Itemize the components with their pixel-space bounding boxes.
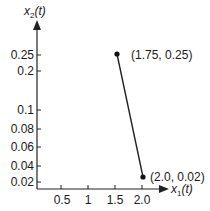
y-tick-label: 0.2 xyxy=(17,64,34,78)
x-tick-label: 1.5 xyxy=(107,193,124,207)
end-point xyxy=(140,174,145,179)
x-tick-label: 1 xyxy=(85,193,92,207)
y-tick-label: 0.25 xyxy=(11,48,35,62)
x-axis-arrow-icon xyxy=(159,185,169,193)
start-point-label: (1.75, 0.25) xyxy=(131,48,192,62)
end-point-label: (2.0, 0.02) xyxy=(150,170,205,184)
y-tick-label: 0.04 xyxy=(11,159,35,173)
y-tick-label: 0.06 xyxy=(11,140,35,154)
trajectory-line xyxy=(117,54,143,177)
phase-plot: x2(t) x1(t) 0.25 0.2 0.1 0.08 0.06 0.04 … xyxy=(0,0,210,211)
y-tick-label: 0.1 xyxy=(17,103,34,117)
start-point xyxy=(114,51,119,56)
x-tick-labels: 0.5 1 1.5 2.0 xyxy=(54,193,151,207)
y-tick-labels: 0.25 0.2 0.1 0.08 0.06 0.04 0.02 xyxy=(11,48,35,189)
y-axis-arrow-icon xyxy=(33,20,41,30)
y-tick-label: 0.02 xyxy=(11,175,35,189)
y-axis-label: x2(t) xyxy=(23,4,46,20)
x-axis-label: x1(t) xyxy=(170,182,193,198)
x-tick-label: 0.5 xyxy=(54,193,71,207)
x-tick-label: 2.0 xyxy=(134,193,151,207)
y-tick-label: 0.08 xyxy=(11,122,35,136)
